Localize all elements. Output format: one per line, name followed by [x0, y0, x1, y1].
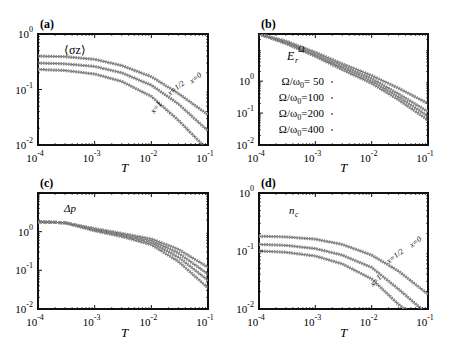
y-tick-label: 10-1: [15, 81, 33, 96]
legend: Ω/ω0= 50Ω/ω0=100Ω/ω0=200Ω/ω0=400: [279, 75, 333, 138]
x-tick-label: 10-1: [416, 313, 434, 328]
x-axis-label: T: [121, 160, 129, 175]
x-tick-label: 10-2: [139, 313, 157, 328]
figure: (a) ⟨σz⟩ x=0 x=1/2 x=1 10-210-1100 10-41…: [0, 0, 454, 346]
y-tick-label: 100: [18, 223, 33, 238]
svg-text:E: E: [286, 49, 295, 63]
series-markers: [259, 251, 428, 327]
y-tick-label: 10-2: [15, 136, 33, 151]
x-tick-label: 10-2: [360, 149, 378, 164]
series-markers: [38, 222, 208, 288]
legend-item: Ω/ω0=400: [279, 123, 325, 138]
curves: [38, 56, 208, 150]
x-tick-label: 10-4: [247, 313, 265, 328]
panel-label: (d): [261, 176, 276, 190]
panel-label: (b): [261, 17, 276, 31]
curve-label-x0: x=0: [407, 235, 424, 251]
y-tick-label: 10-1: [236, 242, 254, 257]
x-axis-label: T: [121, 325, 129, 340]
y-tick-label: 10-1: [15, 261, 33, 276]
curves: [259, 236, 428, 326]
y-tick-label: 10-2: [236, 136, 254, 151]
y-tick-label: 10-2: [15, 300, 33, 315]
y-ticks: 10-210-1100: [236, 34, 428, 151]
svg-text:c: c: [295, 210, 299, 219]
legend-marker: [331, 81, 333, 83]
series-line: [38, 222, 208, 288]
svg-text:Ω: Ω: [298, 44, 305, 54]
curve-label-x1: x=1: [148, 100, 164, 116]
x-ticks: 10-410-310-210-1: [247, 193, 434, 328]
x-tick-label: 10-4: [26, 313, 44, 328]
panel-label: (a): [40, 17, 54, 31]
y-tick-label: 100: [239, 184, 254, 199]
series-line: [259, 251, 428, 327]
panel-label: (c): [40, 176, 53, 190]
legend-item: Ω/ω0= 50: [282, 75, 325, 90]
x-tick-label: 10-1: [196, 149, 214, 164]
y-tick-label: 10-1: [236, 104, 254, 119]
x-tick-label: 10-1: [196, 313, 214, 328]
x-tick-label: 10-3: [303, 149, 321, 164]
panel-b: (b) E r Ω Ω/ω0= 50Ω/ω0=100Ω/ω0=200Ω/ω0=4…: [236, 17, 434, 175]
y-tick-label: 100: [239, 72, 254, 87]
x-tick-label: 10-4: [26, 149, 44, 164]
series-line: [38, 222, 208, 274]
series-markers: [38, 222, 208, 274]
x-tick-label: 10-4: [247, 149, 265, 164]
x-tick-label: 10-3: [83, 149, 101, 164]
legend-marker: [331, 97, 333, 99]
panel-d: (d) n c x=0 x=1/2 x=1 10-210-1100 10-410…: [236, 176, 434, 340]
x-tick-label: 10-3: [303, 313, 321, 328]
curve-label-x0: x=0: [187, 71, 204, 87]
x-tick-label: 10-2: [139, 149, 157, 164]
curves: [38, 222, 208, 288]
svg-text:r: r: [295, 56, 299, 65]
y-tick-label: 10-2: [236, 300, 254, 315]
x-axis-label: T: [340, 160, 348, 175]
y-tick-label: 100: [18, 25, 33, 40]
panel-c: (c) Δp 10-210-1100 10-410-310-210-1 T: [15, 176, 214, 340]
x-ticks: 10-410-310-210-1: [26, 193, 214, 328]
legend-marker: [331, 129, 333, 131]
quantity-label: n c: [289, 204, 299, 219]
quantity-label: ⟨σz⟩: [64, 43, 86, 57]
legend-marker: [331, 113, 333, 115]
legend-item: Ω/ω0=100: [279, 91, 325, 106]
x-axis-label: T: [340, 325, 348, 340]
x-tick-label: 10-3: [83, 313, 101, 328]
x-tick-label: 10-1: [416, 149, 434, 164]
panel-a: (a) ⟨σz⟩ x=0 x=1/2 x=1 10-210-1100 10-41…: [15, 17, 214, 175]
legend-item: Ω/ω0=200: [279, 107, 325, 122]
x-tick-label: 10-2: [360, 313, 378, 328]
quantity-label: Δp: [63, 202, 76, 214]
